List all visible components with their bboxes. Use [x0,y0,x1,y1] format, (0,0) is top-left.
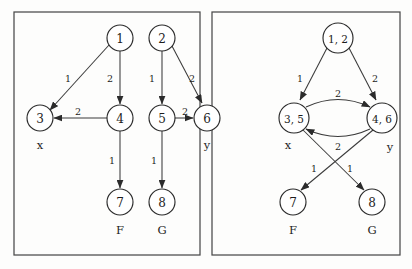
node-5-label: 5 [158,112,166,126]
nodes-right-panel: 1, 2 3, 5 4, 6 7 8 [279,23,397,215]
edge-1-to-3 [50,45,109,110]
node-3[interactable]: 3 [27,105,53,131]
node-4-6[interactable]: 4, 6 [367,103,397,133]
edge-weights-right-panel: 1 2 2 2 1 1 [297,73,378,174]
nodes-left-panel: 1 2 3 4 5 6 7 [27,25,220,215]
edge-weight-12-35: 1 [297,73,303,84]
node-4-label: 4 [116,112,124,126]
annotations-left-panel: x y F G [37,138,211,237]
node-7-label: 7 [116,196,124,210]
graph-diagram-svg: 1 2 1 2 2 2 1 1 1 2 3 4 [0,0,412,269]
node-1-2-label: 1, 2 [328,33,348,45]
edge-weight-12-46: 2 [372,73,378,84]
node-8-right-label: 8 [368,196,376,210]
edge-weight-4-3: 2 [75,106,81,117]
edge-weight-2-6: 2 [189,73,195,84]
edge-12-to-35 [300,48,327,100]
edge-weight-1-3: 1 [65,73,71,84]
annotation-left-F: F [116,223,124,237]
annotations-right-panel: x y F G [285,138,394,237]
node-6[interactable]: 6 [194,105,220,131]
node-1[interactable]: 1 [107,25,133,51]
annotation-left-x: x [37,138,44,152]
edge-weight-1-4: 2 [107,73,113,84]
node-1-label: 1 [116,32,124,46]
node-8[interactable]: 8 [149,189,175,215]
node-2[interactable]: 2 [149,25,175,51]
edge-weight-46-7: 1 [311,163,317,174]
edge-weight-46-35: 2 [335,141,341,152]
edge-weight-2-5: 1 [149,73,155,84]
node-3-label: 3 [36,112,44,126]
panel-frame-left [14,12,200,255]
edge-35-to-46-curved [306,100,370,108]
annotation-right-G: G [367,223,376,237]
node-7[interactable]: 7 [107,189,133,215]
annotation-right-x: x [285,138,292,152]
annotation-right-F: F [289,223,297,237]
edge-46-to-35-curved [306,129,370,137]
edge-weight-4-7: 1 [109,155,115,166]
annotation-right-y: y [386,140,394,154]
node-3-5-label: 3, 5 [284,113,304,125]
edge-weight-35-8: 1 [347,163,353,174]
node-1-2[interactable]: 1, 2 [323,23,353,53]
node-2-label: 2 [158,32,166,46]
node-8-right[interactable]: 8 [359,189,385,215]
annotation-left-y: y [203,138,211,152]
edge-weight-5-8: 1 [151,155,157,166]
figure-canvas: 1 2 1 2 2 2 1 1 1 2 3 4 [0,0,412,269]
node-4-6-label: 4, 6 [372,113,392,125]
node-7-right[interactable]: 7 [280,189,306,215]
node-6-label: 6 [203,112,211,126]
edge-weight-5-6: 2 [182,106,188,117]
edge-weight-35-46: 2 [335,88,341,99]
node-5[interactable]: 5 [149,105,175,131]
node-7-right-label: 7 [289,196,297,210]
annotation-left-G: G [157,223,166,237]
node-8-label: 8 [158,196,166,210]
node-3-5[interactable]: 3, 5 [279,103,309,133]
edge-2-to-6 [172,46,202,103]
node-4[interactable]: 4 [107,105,133,131]
